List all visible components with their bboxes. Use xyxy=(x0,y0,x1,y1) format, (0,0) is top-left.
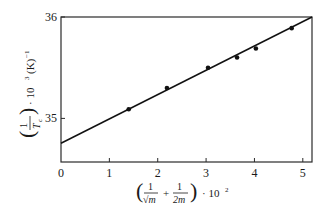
data-point xyxy=(165,86,170,91)
x-label-frac1-den: √m xyxy=(143,194,156,205)
x-label-frac2-num: 1 xyxy=(177,181,182,192)
x-label-plus: + xyxy=(163,187,169,199)
y-label-suffix: · 10 xyxy=(24,87,36,105)
y-axis: 3536 xyxy=(45,10,65,125)
y-tick-label: 36 xyxy=(45,10,57,24)
y-label-unit-exp: −1 xyxy=(23,50,31,58)
x-tick-label: 3 xyxy=(203,166,209,180)
plot-area xyxy=(61,17,312,162)
data-series xyxy=(61,17,312,143)
x-label-exp: 2 xyxy=(225,186,229,194)
y-tick-label: 35 xyxy=(45,111,57,125)
y-label-paren-open: ( xyxy=(14,131,39,138)
fit-line xyxy=(61,17,312,143)
x-tick-label: 2 xyxy=(155,166,161,180)
plot-frame xyxy=(61,17,312,162)
y-label-paren-close: ) xyxy=(14,108,39,115)
x-tick-label: 5 xyxy=(300,166,306,180)
x-axis: 012345 xyxy=(58,158,306,180)
x-label-frac2-den: 2m xyxy=(173,194,185,205)
data-point xyxy=(254,46,259,51)
y-label-frac-den: T xyxy=(31,122,42,129)
y-label-frac-den-sub: c xyxy=(36,118,44,122)
x-axis-label: ( 1 √m + 1 2m ) · 10 2 xyxy=(136,178,229,205)
data-point xyxy=(206,65,211,70)
data-point xyxy=(126,107,131,112)
y-label-unit: (K) xyxy=(24,58,37,74)
y-label-frac-num: 1 xyxy=(18,123,29,128)
x-tick-label: 1 xyxy=(106,166,112,180)
x-label-frac1-num: 1 xyxy=(148,181,153,192)
scatter-chart: 012345 3536 ( 1 T c ) · 10 3 (K) −1 ( 1 … xyxy=(0,0,329,210)
y-axis-label: ( 1 T c ) · 10 3 (K) −1 xyxy=(14,50,44,138)
y-label-exp: 3 xyxy=(23,76,31,80)
data-point xyxy=(235,55,240,60)
x-label-paren-close: ) xyxy=(190,178,197,203)
data-point xyxy=(289,26,294,31)
x-label-suffix: · 10 xyxy=(202,187,220,199)
x-tick-label: 4 xyxy=(251,166,257,180)
x-tick-label: 0 xyxy=(58,166,64,180)
